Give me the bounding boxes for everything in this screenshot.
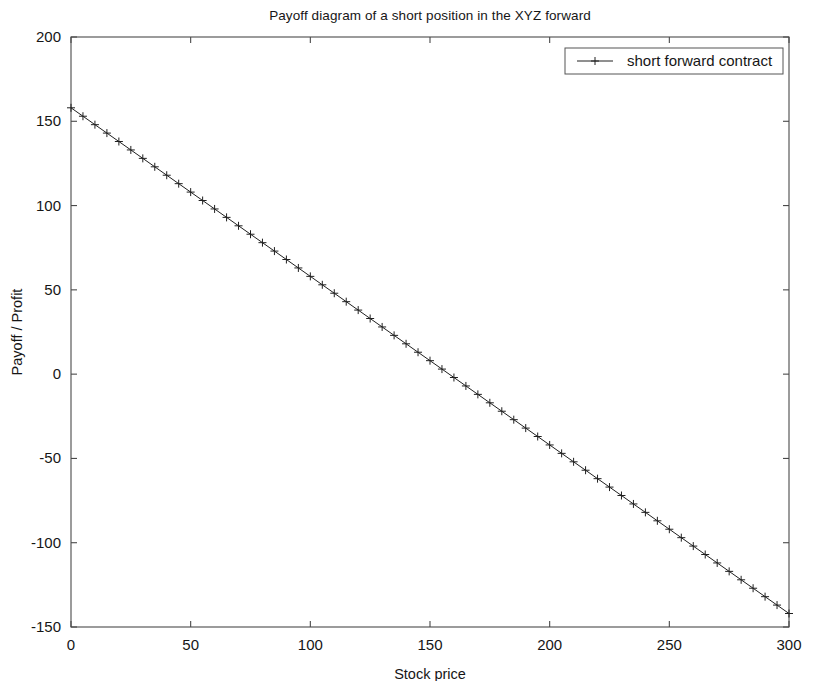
data-point-marker bbox=[474, 390, 482, 398]
data-point-marker bbox=[67, 104, 75, 112]
data-point-marker bbox=[282, 256, 290, 264]
data-point-marker bbox=[91, 121, 99, 129]
x-tick-label: 0 bbox=[67, 636, 75, 653]
data-point-marker bbox=[749, 584, 757, 592]
y-tick-label: 200 bbox=[36, 28, 61, 45]
data-point-marker bbox=[127, 146, 135, 154]
x-tick-label: 200 bbox=[537, 636, 562, 653]
data-point-marker bbox=[318, 281, 326, 289]
data-point-marker bbox=[151, 163, 159, 171]
data-point-marker bbox=[486, 399, 494, 407]
data-point-marker bbox=[330, 289, 338, 297]
data-point-marker bbox=[390, 331, 398, 339]
x-tick-label: 50 bbox=[182, 636, 199, 653]
legend-entry-label: short forward contract bbox=[627, 52, 773, 69]
data-point-marker bbox=[498, 407, 506, 415]
data-point-marker bbox=[426, 357, 434, 365]
figure-canvas: Payoff diagram of a short position in th… bbox=[0, 0, 822, 681]
x-tick-label: 300 bbox=[776, 636, 801, 653]
data-point-marker bbox=[414, 348, 422, 356]
data-point-marker bbox=[342, 298, 350, 306]
y-tick-label: 50 bbox=[44, 281, 61, 298]
x-tick-label: 150 bbox=[417, 636, 442, 653]
data-point-marker bbox=[677, 534, 685, 542]
data-point-marker bbox=[462, 382, 470, 390]
data-point-marker bbox=[558, 449, 566, 457]
x-tick-label: 100 bbox=[298, 636, 323, 653]
data-point-marker bbox=[187, 188, 195, 196]
data-point-marker bbox=[534, 433, 542, 441]
data-point-marker bbox=[223, 213, 231, 221]
data-point-marker bbox=[737, 576, 745, 584]
data-point-marker bbox=[294, 264, 302, 272]
data-point-marker bbox=[247, 230, 255, 238]
data-point-marker bbox=[354, 306, 362, 314]
data-point-marker bbox=[701, 551, 709, 559]
x-tick-label: 250 bbox=[657, 636, 682, 653]
data-point-marker bbox=[103, 129, 111, 137]
data-point-marker bbox=[79, 112, 87, 120]
data-point-marker bbox=[378, 323, 386, 331]
data-point-marker bbox=[594, 475, 602, 483]
data-point-marker bbox=[629, 500, 637, 508]
data-point-marker bbox=[211, 205, 219, 213]
data-point-marker bbox=[773, 601, 781, 609]
y-tick-label: -100 bbox=[31, 534, 61, 551]
y-tick-label: 150 bbox=[36, 112, 61, 129]
data-point-marker bbox=[546, 441, 554, 449]
y-tick-label: 100 bbox=[36, 197, 61, 214]
data-point-marker bbox=[761, 593, 769, 601]
data-point-marker bbox=[139, 154, 147, 162]
data-point-marker bbox=[582, 466, 590, 474]
data-point-marker bbox=[653, 517, 661, 525]
data-series-group bbox=[67, 104, 793, 618]
data-point-marker bbox=[641, 508, 649, 516]
data-point-marker bbox=[665, 525, 673, 533]
data-point-marker bbox=[606, 483, 614, 491]
data-point-marker bbox=[689, 542, 697, 550]
y-axis-title: Payoff / Profit bbox=[9, 289, 25, 376]
data-point-marker bbox=[175, 180, 183, 188]
data-point-marker bbox=[115, 138, 123, 146]
data-point-marker bbox=[438, 365, 446, 373]
data-point-marker bbox=[522, 424, 530, 432]
legend[interactable]: short forward contract bbox=[565, 48, 783, 74]
y-tick-label: -150 bbox=[31, 618, 61, 635]
axis-labels-group: 050100150200250300-150-100-5005010015020… bbox=[9, 28, 802, 681]
data-point-marker bbox=[306, 272, 314, 280]
data-point-marker bbox=[199, 197, 207, 205]
data-point-marker bbox=[402, 340, 410, 348]
data-point-marker bbox=[785, 610, 793, 618]
data-point-marker bbox=[725, 567, 733, 575]
data-point-marker bbox=[450, 374, 458, 382]
x-axis-title: Stock price bbox=[394, 666, 466, 681]
data-point-marker bbox=[510, 416, 518, 424]
data-point-marker bbox=[270, 247, 278, 255]
y-tick-label: 0 bbox=[53, 365, 61, 382]
plot-area: short forward contract 05010015020025030… bbox=[0, 0, 822, 681]
data-point-marker bbox=[570, 458, 578, 466]
data-point-marker bbox=[235, 222, 243, 230]
y-tick-label: -50 bbox=[39, 449, 61, 466]
data-point-marker bbox=[163, 171, 171, 179]
data-point-marker bbox=[713, 559, 721, 567]
data-point-marker bbox=[366, 315, 374, 323]
data-point-marker bbox=[617, 492, 625, 500]
data-point-marker bbox=[258, 239, 266, 247]
